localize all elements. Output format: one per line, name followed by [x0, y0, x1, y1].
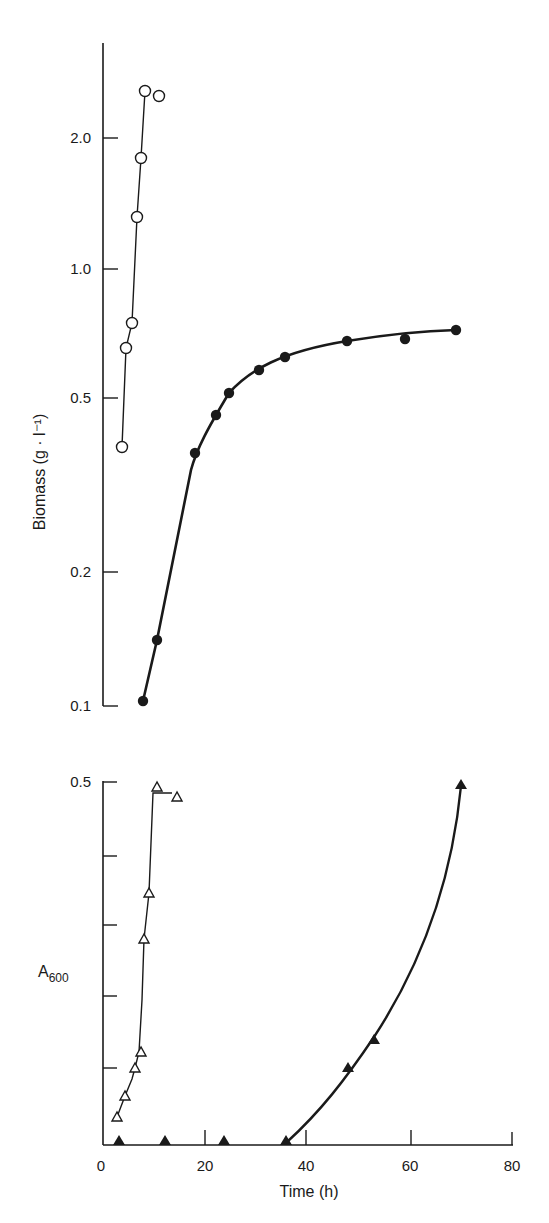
filled-circle-marker [211, 410, 221, 420]
open-triangle-marker [172, 792, 182, 801]
open-triangle-markers [112, 782, 182, 1121]
top-ytick-label: 2.0 [70, 129, 91, 146]
open-triangle-marker [120, 1091, 130, 1100]
top-y-axis-title: Biomass (g · l⁻¹) [31, 414, 48, 530]
bottom-ylabel-sub: 600 [49, 971, 69, 985]
filled-triangle-marker [455, 779, 467, 789]
xtick-label: 60 [402, 1157, 419, 1174]
filled-circle-curve [143, 330, 456, 701]
xtick-label: 0 [97, 1157, 105, 1174]
filled-triangle-marker [368, 1034, 380, 1044]
open-triangle-marker [152, 782, 162, 791]
open-triangle-marker [130, 1063, 140, 1072]
filled-circle-marker [400, 334, 410, 344]
filled-circle-marker [451, 325, 461, 335]
filled-circle-marker [224, 388, 234, 398]
open-circle-marker [140, 86, 151, 97]
open-triangle-marker [136, 1047, 146, 1056]
bottom-ylabel-main: A [38, 963, 49, 980]
xtick-label: 20 [197, 1157, 214, 1174]
filled-triangle-curve [287, 786, 461, 1142]
filled-circle-marker [152, 635, 162, 645]
filled-triangle-marker [159, 1135, 171, 1145]
open-circle-marker [136, 153, 147, 164]
filled-triangle-marker [113, 1135, 125, 1145]
open-triangle-marker [139, 934, 149, 943]
x-axis-title: Time (h) [280, 1183, 339, 1200]
filled-triangle-marker [218, 1135, 230, 1145]
filled-circle-marker [138, 696, 148, 706]
bottom-y-axis-title: A600 [38, 963, 69, 985]
open-circle-marker [132, 212, 143, 223]
top-panel: 2.0 1.0 0.5 0.2 0.1 Biomass (g · l⁻¹) [31, 43, 461, 714]
filled-circle-marker [280, 352, 290, 362]
figure-canvas: 2.0 1.0 0.5 0.2 0.1 Biomass (g · l⁻¹) [0, 0, 549, 1223]
top-ytick-label: 0.1 [70, 697, 91, 714]
open-circle-marker [154, 91, 165, 102]
xtick-label: 40 [298, 1157, 315, 1174]
open-triangle-marker [144, 888, 154, 897]
bottom-panel: 0.5 A600 0 20 40 60 80 Time (h) [38, 773, 520, 1200]
filled-circle-marker [190, 448, 200, 458]
filled-circle-markers [138, 325, 461, 706]
top-ytick-label: 1.0 [70, 260, 91, 277]
top-ytick-label: 0.5 [70, 389, 91, 406]
top-ytick-label: 0.2 [70, 563, 91, 580]
open-circle-marker [127, 318, 138, 329]
bottom-ytick-label: 0.5 [70, 773, 91, 790]
open-circle-marker [121, 343, 132, 354]
filled-circle-marker [342, 336, 352, 346]
open-circle-marker [117, 442, 128, 453]
xtick-label: 80 [504, 1157, 521, 1174]
open-triangle-marker [112, 1112, 122, 1121]
open-circle-line [122, 91, 145, 447]
open-triangle-line [117, 793, 172, 1117]
filled-circle-marker [254, 365, 264, 375]
